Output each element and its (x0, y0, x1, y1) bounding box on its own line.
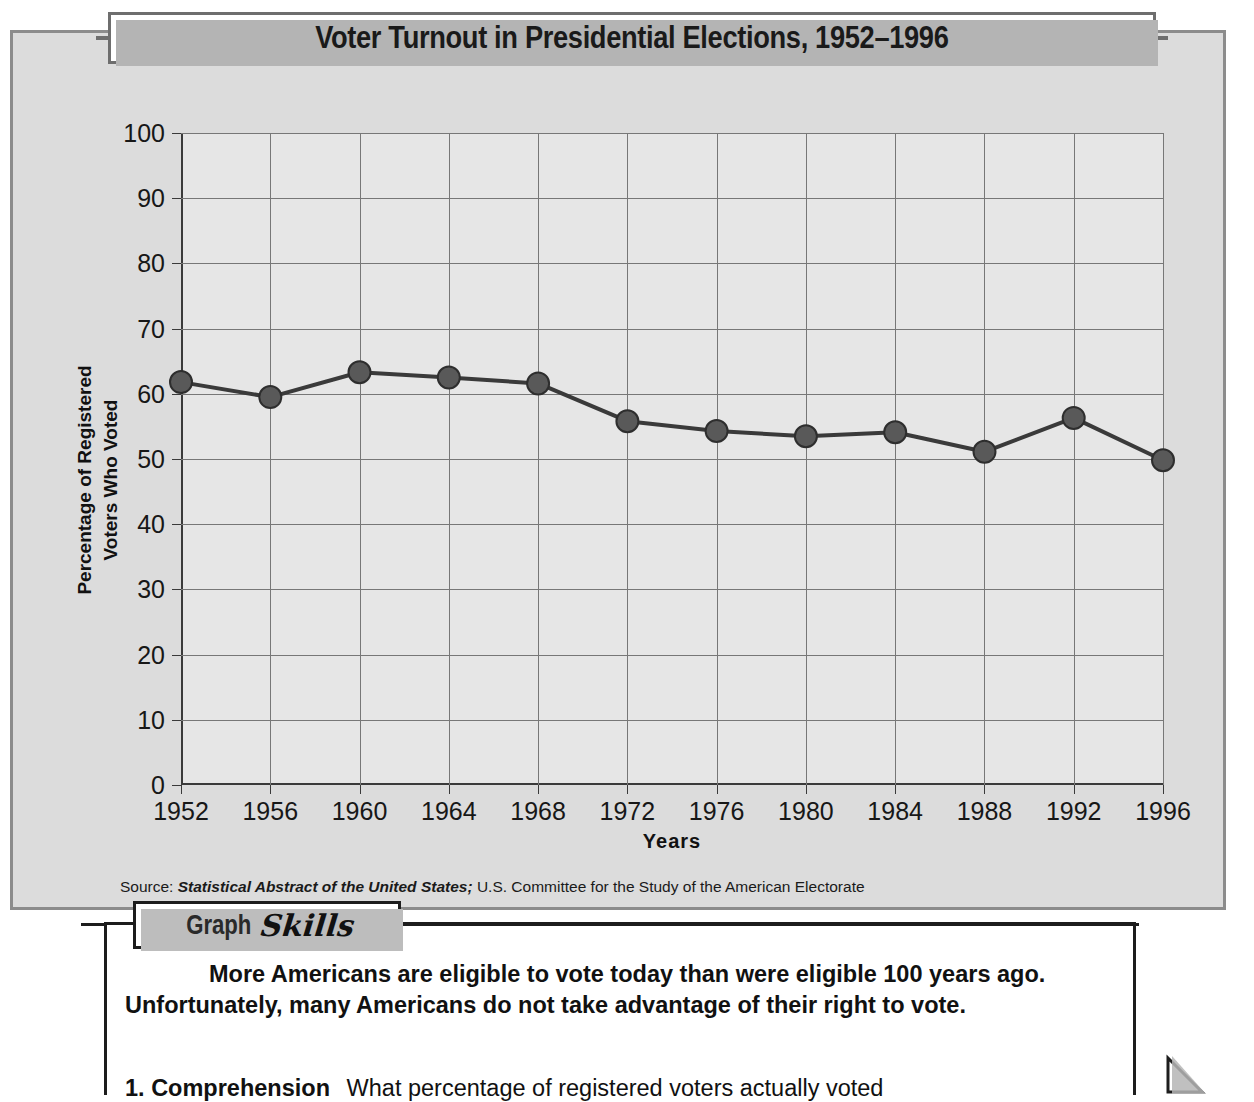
x-axis-tick-label: 1956 (242, 797, 298, 826)
x-axis-tick (1074, 785, 1075, 794)
y-axis-tick (172, 198, 181, 199)
x-axis-tick (627, 785, 628, 794)
x-axis-tick-label: 1964 (421, 797, 477, 826)
y-axis-tick-label: 30 (137, 575, 165, 604)
source-publication: Statistical Abstract of the United State… (178, 878, 473, 895)
y-axis-tick (172, 720, 181, 721)
graph-skills-word-graph: Graph (187, 910, 252, 941)
x-axis-tick-label: 1992 (1046, 797, 1102, 826)
x-axis-tick (984, 785, 985, 794)
page-title: Voter Turnout in Presidential Elections,… (315, 20, 948, 56)
y-axis-tick (172, 459, 181, 460)
x-axis-tick-label: 1976 (689, 797, 745, 826)
data-point-marker (616, 410, 638, 432)
x-axis-tick-label: 1996 (1135, 797, 1191, 826)
x-axis-tick (717, 785, 718, 794)
data-series-line (181, 133, 1163, 785)
chart-title-box: Voter Turnout in Presidential Elections,… (108, 12, 1156, 64)
x-axis-tick (895, 785, 896, 794)
x-axis-tick-label: 1968 (510, 797, 566, 826)
x-axis-tick-label: 1960 (332, 797, 388, 826)
y-axis-tick (172, 263, 181, 264)
tab-rule-right (401, 923, 1139, 926)
tab-rule-left (81, 923, 107, 926)
y-axis-tick-label: 80 (137, 249, 165, 278)
y-axis-tick-label: 10 (137, 705, 165, 734)
source-label: Source: (120, 878, 173, 895)
y-axis-tick (172, 589, 181, 590)
y-axis-tick (172, 133, 181, 134)
x-axis-title: Years (181, 830, 1163, 853)
x-axis-tick (449, 785, 450, 794)
x-axis-tick-label: 1952 (153, 797, 209, 826)
data-point-marker (1063, 407, 1085, 429)
y-axis-tick-label: 60 (137, 379, 165, 408)
data-point-marker (259, 386, 281, 408)
x-axis-tick (270, 785, 271, 794)
source-note: Source: Statistical Abstract of the Unit… (120, 878, 865, 896)
y-axis-tick-label: 90 (137, 184, 165, 213)
x-axis-tick (181, 785, 182, 794)
y-axis-tick-label: 0 (151, 771, 165, 800)
data-point-marker (1152, 449, 1174, 471)
y-axis-tick-label: 100 (123, 119, 165, 148)
graph-skills-body-text: More Americans are eligible to vote toda… (125, 961, 1045, 1018)
y-axis-tick (172, 655, 181, 656)
x-axis-tick-label: 1980 (778, 797, 834, 826)
y-axis-tick (172, 329, 181, 330)
graph-skills-body: More Americans are eligible to vote toda… (125, 959, 1111, 1021)
data-point-marker (438, 367, 460, 389)
data-point-marker (974, 441, 996, 463)
data-point-marker (349, 361, 371, 383)
x-axis-tick (806, 785, 807, 794)
question-number: 1. (125, 1075, 145, 1101)
question-text: What percentage of registered voters act… (347, 1075, 884, 1101)
data-point-marker (706, 420, 728, 442)
graph-skills-tab: Graph Skills (133, 901, 401, 949)
y-axis-tick-label: 20 (137, 640, 165, 669)
source-rest: U.S. Committee for the Study of the Amer… (477, 878, 865, 895)
x-axis-tick (538, 785, 539, 794)
series-line (181, 372, 1163, 460)
y-axis-tick-label: 50 (137, 445, 165, 474)
y-axis-tick-label: 70 (137, 314, 165, 343)
data-point-marker (795, 425, 817, 447)
x-axis-tick-label: 1988 (957, 797, 1013, 826)
plot-area: 0102030405060708090100 19521956196019641… (181, 133, 1163, 785)
y-axis-title: Percentage of Registered Voters Who Vote… (72, 330, 123, 630)
y-axis-title-line2: Voters Who Voted (98, 330, 124, 630)
question-item: 1. Comprehension What percentage of regi… (125, 1075, 883, 1102)
x-axis-tick (360, 785, 361, 794)
y-axis-title-line1: Percentage of Registered (72, 330, 98, 630)
graph-skills-word-skills: Skills (259, 908, 356, 943)
x-axis-tick (1163, 785, 1164, 794)
chart-container: Percentage of Registered Voters Who Vote… (10, 30, 1226, 910)
graph-skills-box: Graph Skills More Americans are eligible… (104, 922, 1136, 1095)
y-axis-tick (172, 785, 181, 786)
x-axis-tick-label: 1972 (600, 797, 656, 826)
data-point-marker (170, 371, 192, 393)
x-axis-tick-label: 1984 (867, 797, 923, 826)
question-term: Comprehension (151, 1075, 330, 1101)
y-axis-tick-label: 40 (137, 510, 165, 539)
data-point-marker (884, 421, 906, 443)
data-point-marker (527, 372, 549, 394)
page-corner-fold-icon (1150, 1030, 1254, 1095)
y-axis-tick (172, 524, 181, 525)
